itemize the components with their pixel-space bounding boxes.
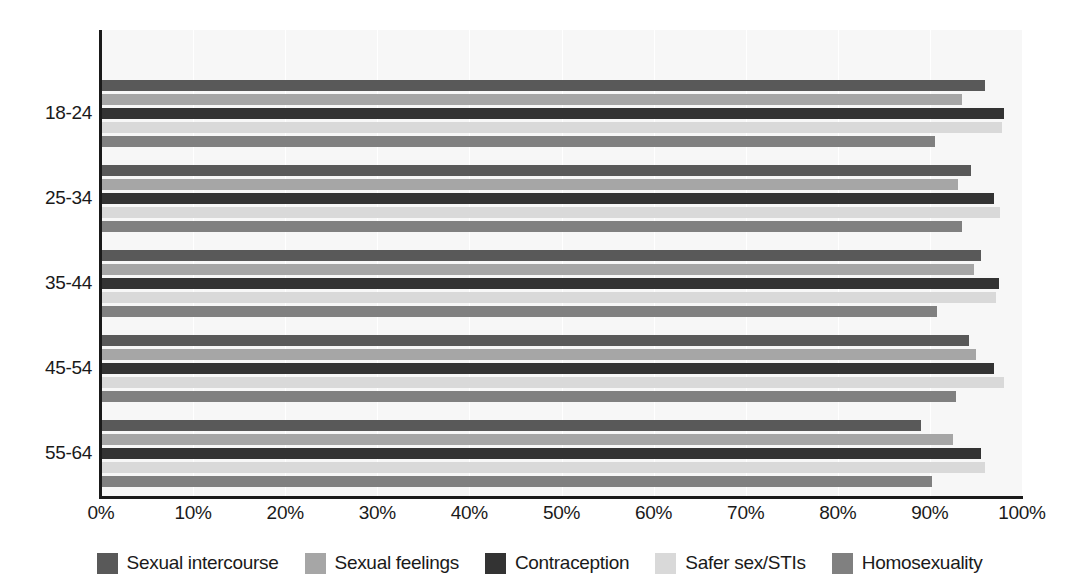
- legend-label: Safer sex/STIs: [685, 552, 805, 574]
- bar-group-55-64: [101, 420, 1022, 487]
- bar-row: [101, 434, 1022, 445]
- bar-group-35-44: [101, 250, 1022, 317]
- bar: [101, 420, 921, 431]
- y-tick-label-35-44: 35-44: [6, 272, 92, 294]
- bar-row: [101, 94, 1022, 105]
- gridline: [1022, 30, 1023, 497]
- bar: [101, 434, 953, 445]
- bar: [101, 292, 996, 303]
- y-tick-label-25-34: 25-34: [6, 187, 92, 209]
- bar: [101, 165, 971, 176]
- legend-swatch-icon: [485, 553, 506, 574]
- x-tick-label-60: 60%: [635, 502, 672, 524]
- bar-row: [101, 80, 1022, 91]
- bar: [101, 207, 1000, 218]
- bar-group-25-34: [101, 165, 1022, 232]
- bar-row: [101, 165, 1022, 176]
- bar-row: [101, 193, 1022, 204]
- chart-legend: Sexual intercourseSexual feelingsContrac…: [0, 546, 1079, 580]
- legend-swatch-icon: [655, 553, 676, 574]
- y-tick-label-18-24: 18-24: [6, 102, 92, 124]
- bar: [101, 377, 1004, 388]
- y-axis-line: [99, 30, 102, 498]
- bar-chart: 18-2425-3435-4445-5455-64 0%10%20%30%40%…: [0, 0, 1079, 588]
- bar-row: [101, 462, 1022, 473]
- bar-row: [101, 363, 1022, 374]
- bar: [101, 250, 981, 261]
- bar: [101, 335, 969, 346]
- bar-row: [101, 420, 1022, 431]
- bar: [101, 363, 994, 374]
- x-tick-label-70: 70%: [727, 502, 764, 524]
- x-tick-label-40: 40%: [451, 502, 488, 524]
- legend-label: Contraception: [515, 552, 629, 574]
- bar: [101, 448, 981, 459]
- bar-row: [101, 377, 1022, 388]
- bar: [101, 306, 937, 317]
- x-tick-label-0: 0%: [88, 502, 115, 524]
- bar-row: [101, 448, 1022, 459]
- bar-row: [101, 179, 1022, 190]
- bar-group-45-54: [101, 335, 1022, 402]
- bar-row: [101, 221, 1022, 232]
- x-tick-label-10: 10%: [175, 502, 212, 524]
- x-axis-tick-labels: 0%10%20%30%40%50%60%70%80%90%100%: [0, 502, 1079, 532]
- legend-swatch-icon: [97, 553, 118, 574]
- bar-row: [101, 476, 1022, 487]
- x-tick-label-90: 90%: [911, 502, 948, 524]
- x-tick-label-80: 80%: [819, 502, 856, 524]
- legend-swatch-icon: [305, 553, 326, 574]
- x-axis-line: [99, 496, 1023, 499]
- bar-row: [101, 391, 1022, 402]
- bar: [101, 391, 956, 402]
- x-tick-label-100: 100%: [998, 502, 1045, 524]
- bar-row: [101, 292, 1022, 303]
- bar-row: [101, 136, 1022, 147]
- bar-row: [101, 349, 1022, 360]
- bar: [101, 108, 1004, 119]
- legend-item-4[interactable]: Homosexuality: [832, 552, 983, 574]
- legend-item-2[interactable]: Contraception: [485, 552, 629, 574]
- bar: [101, 136, 935, 147]
- y-axis-tick-labels: 18-2425-3435-4445-5455-64: [0, 0, 92, 588]
- bar-row: [101, 278, 1022, 289]
- bar-row: [101, 207, 1022, 218]
- legend-item-3[interactable]: Safer sex/STIs: [655, 552, 805, 574]
- bar-group-18-24: [101, 80, 1022, 147]
- bar-row: [101, 335, 1022, 346]
- bar-row: [101, 122, 1022, 133]
- legend-swatch-icon: [832, 553, 853, 574]
- legend-label: Sexual feelings: [335, 552, 459, 574]
- bar: [101, 476, 932, 487]
- bar-row: [101, 306, 1022, 317]
- bar: [101, 349, 976, 360]
- legend-item-1[interactable]: Sexual feelings: [305, 552, 459, 574]
- bar-row: [101, 108, 1022, 119]
- bar: [101, 80, 985, 91]
- plot-area: [101, 30, 1022, 497]
- bar-row: [101, 264, 1022, 275]
- y-tick-label-55-64: 55-64: [6, 442, 92, 464]
- legend-item-0[interactable]: Sexual intercourse: [97, 552, 279, 574]
- bar: [101, 221, 962, 232]
- legend-label: Sexual intercourse: [127, 552, 279, 574]
- bar: [101, 122, 1002, 133]
- x-tick-label-30: 30%: [359, 502, 396, 524]
- legend-label: Homosexuality: [862, 552, 983, 574]
- bar: [101, 278, 999, 289]
- bar: [101, 94, 962, 105]
- bar: [101, 264, 974, 275]
- bar-row: [101, 250, 1022, 261]
- x-tick-label-50: 50%: [543, 502, 580, 524]
- x-tick-label-20: 20%: [267, 502, 304, 524]
- y-tick-label-45-54: 45-54: [6, 357, 92, 379]
- bar: [101, 193, 994, 204]
- bar: [101, 179, 958, 190]
- bar: [101, 462, 985, 473]
